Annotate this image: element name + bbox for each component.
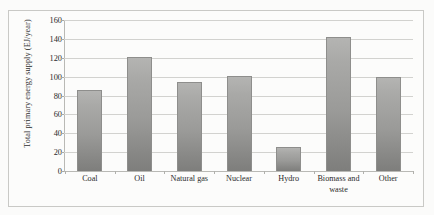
y-tick-mark-20 (61, 152, 64, 153)
y-tick-label-80: 80 (22, 91, 62, 100)
y-tick-mark-0 (61, 171, 64, 172)
bar-coal[interactable] (77, 90, 102, 171)
y-tick-mark-120 (61, 58, 64, 59)
x-label-oil: Oil (115, 174, 165, 195)
x-label-coal: Coal (65, 174, 115, 195)
bar-other[interactable] (376, 77, 401, 171)
gridline-0 (64, 171, 413, 172)
bar-hydro[interactable] (276, 147, 301, 171)
y-tick-mark-140 (61, 39, 64, 40)
y-tick-mark-80 (61, 96, 64, 97)
x-axis-tick-labels: CoalOilNatural gasNuclearHydroBiomass an… (65, 174, 413, 195)
x-label-natural-gas: Natural gas (164, 174, 214, 195)
y-tick-label-140: 140 (22, 34, 62, 43)
y-tick-label-40: 40 (22, 129, 62, 138)
chart-frame: Total primary energy supply (EJ/year) 02… (8, 10, 424, 207)
y-tick-mark-100 (61, 77, 64, 78)
y-axis-title: Total primary energy supply (EJ/year) (23, 4, 32, 164)
x-label-nuclear: Nuclear (214, 174, 264, 195)
y-tick-mark-160 (61, 20, 64, 21)
x-label-hydro: Hydro (264, 174, 314, 195)
bar-slot (115, 20, 165, 171)
bar-natural-gas[interactable] (177, 82, 202, 171)
y-tick-label-60: 60 (22, 110, 62, 119)
x-tick-mark-7 (413, 171, 414, 174)
bar-series (65, 20, 413, 171)
y-tick-label-0: 0 (22, 167, 62, 176)
bar-oil[interactable] (127, 57, 152, 171)
bar-slot (164, 20, 214, 171)
y-tick-label-100: 100 (22, 72, 62, 81)
bar-slot (264, 20, 314, 171)
bar-nuclear[interactable] (227, 76, 252, 171)
y-tick-label-20: 20 (22, 148, 62, 157)
y-tick-mark-40 (61, 133, 64, 134)
bar-biomass-and-waste[interactable] (326, 37, 351, 171)
x-label-biomass-and-waste: Biomass and waste (314, 174, 364, 195)
bar-slot (65, 20, 115, 171)
y-tick-label-160: 160 (22, 16, 62, 25)
y-tick-label-120: 120 (22, 53, 62, 62)
y-tick-mark-60 (61, 114, 64, 115)
x-label-other: Other (363, 174, 413, 195)
plot-area: 020406080100120140160 (64, 20, 413, 171)
bar-slot (363, 20, 413, 171)
bar-slot (214, 20, 264, 171)
bar-slot (314, 20, 364, 171)
